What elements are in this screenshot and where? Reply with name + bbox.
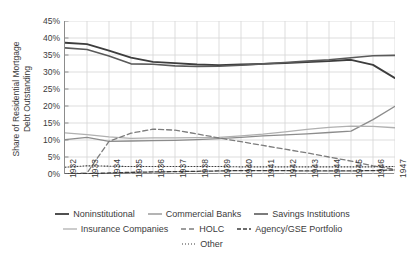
series-line-insurance-companies bbox=[65, 126, 395, 138]
legend-item-insurance-companies[interactable]: Insurance Companies bbox=[63, 224, 169, 234]
legend-label-other: Other bbox=[200, 239, 223, 249]
x-tick-label: 1935 bbox=[134, 159, 144, 178]
chart-svg bbox=[65, 21, 395, 174]
x-tick-label: 1944 bbox=[332, 159, 342, 178]
x-tick-label: 1945 bbox=[354, 159, 364, 178]
x-tick-label: 1943 bbox=[310, 159, 320, 178]
legend-item-agency-gse-portfolio[interactable]: Agency/GSE Portfolio bbox=[237, 224, 342, 234]
chart-legend: NoninstitutionalCommercial BanksSavings … bbox=[0, 206, 405, 251]
legend-item-holc[interactable]: HOLC bbox=[181, 224, 224, 234]
legend-label-noninstitutional: Noninstitutional bbox=[73, 209, 135, 219]
legend-label-holc: HOLC bbox=[199, 224, 224, 234]
x-tick-label: 1934 bbox=[112, 159, 122, 178]
legend-swatch-savings-institutions bbox=[254, 211, 268, 217]
x-tick-label: 1942 bbox=[288, 159, 298, 178]
x-tick-label: 1936 bbox=[156, 159, 166, 178]
legend-item-savings-institutions[interactable]: Savings Institutions bbox=[254, 209, 350, 219]
legend-swatch-holc bbox=[181, 226, 195, 232]
x-tick-label: 1941 bbox=[266, 159, 276, 178]
x-tick-label: 1946 bbox=[376, 159, 386, 178]
legend-swatch-other bbox=[182, 241, 196, 247]
plot-area bbox=[64, 21, 394, 174]
y-tick-label: 5% bbox=[30, 152, 60, 162]
x-tick-label: 1947 bbox=[398, 159, 408, 178]
y-tick-label: 45% bbox=[30, 16, 60, 26]
legend-row: Other bbox=[0, 236, 405, 251]
x-tick-label: 1938 bbox=[200, 159, 210, 178]
x-tick-label: 1932 bbox=[68, 159, 78, 178]
x-tick-label: 1933 bbox=[90, 159, 100, 178]
x-tick-label: 1939 bbox=[222, 159, 232, 178]
legend-item-other[interactable]: Other bbox=[182, 239, 223, 249]
legend-row: Insurance CompaniesHOLCAgency/GSE Portfo… bbox=[0, 221, 405, 236]
legend-label-commercial-banks: Commercial Banks bbox=[166, 209, 242, 219]
series-line-noninstitutional bbox=[65, 43, 395, 78]
legend-row: NoninstitutionalCommercial BanksSavings … bbox=[0, 206, 405, 221]
legend-swatch-commercial-banks bbox=[148, 211, 162, 217]
y-tick-label: 20% bbox=[30, 101, 60, 111]
legend-swatch-agency-gse-portfolio bbox=[237, 226, 251, 232]
y-tick-label: 0% bbox=[30, 169, 60, 179]
legend-label-insurance-companies: Insurance Companies bbox=[81, 224, 169, 234]
y-tick-label: 30% bbox=[30, 67, 60, 77]
y-tick-label: 10% bbox=[30, 135, 60, 145]
y-tick-label: 40% bbox=[30, 33, 60, 43]
legend-swatch-noninstitutional bbox=[55, 211, 69, 217]
legend-swatch-insurance-companies bbox=[63, 226, 77, 232]
y-tick-label: 15% bbox=[30, 118, 60, 128]
legend-item-commercial-banks[interactable]: Commercial Banks bbox=[148, 209, 242, 219]
x-tick-label: 1937 bbox=[178, 159, 188, 178]
x-tick-label: 1940 bbox=[244, 159, 254, 178]
legend-item-noninstitutional[interactable]: Noninstitutional bbox=[55, 209, 135, 219]
legend-label-savings-institutions: Savings Institutions bbox=[272, 209, 350, 219]
series-line-savings-institutions bbox=[65, 48, 395, 67]
legend-label-agency-gse-portfolio: Agency/GSE Portfolio bbox=[255, 224, 342, 234]
y-tick-label: 35% bbox=[30, 50, 60, 60]
y-tick-label: 25% bbox=[30, 84, 60, 94]
